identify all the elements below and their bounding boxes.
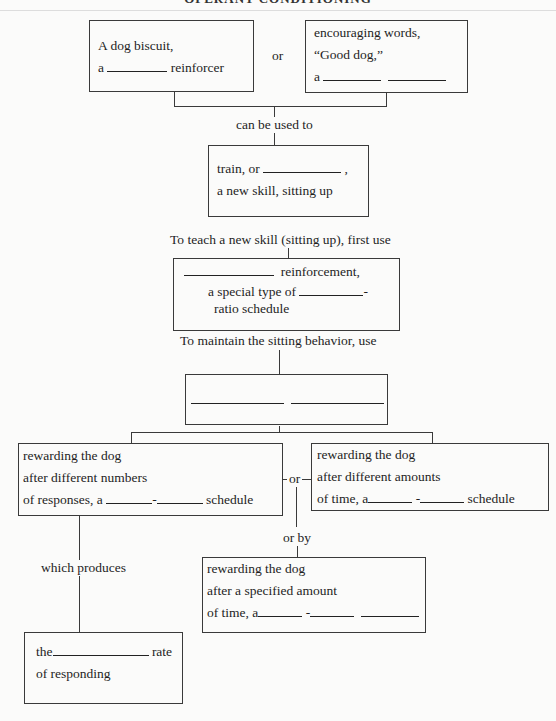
connector-line <box>131 432 132 443</box>
box-text: A dog biscuit, <box>98 35 253 57</box>
connector-line <box>297 546 298 557</box>
box-text: ratio schedule <box>184 302 399 316</box>
box-text: schedule <box>468 491 515 506</box>
connector-line <box>174 91 175 106</box>
blank-field[interactable] <box>420 490 464 503</box>
maintain-schedule-box <box>185 374 388 425</box>
blank-field[interactable] <box>368 490 412 503</box>
box-text: of time, a <box>207 605 258 620</box>
box-text: after different numbers <box>23 467 282 489</box>
box-text: “Good dog,” <box>314 44 467 66</box>
page-header: OPERANT CONDITIONING <box>0 0 556 7</box>
or-by-label: or by <box>281 530 313 546</box>
box-text: rewarding the dog <box>317 444 548 466</box>
connector-line <box>296 485 297 527</box>
blank-field[interactable] <box>263 160 341 173</box>
blank-field[interactable] <box>361 604 419 617</box>
box-text: a <box>98 60 104 75</box>
blank-field[interactable] <box>299 283 363 296</box>
response-rate-box: the rate of responding <box>24 632 183 704</box>
different-amounts-box: rewarding the dog after different amount… <box>311 443 549 511</box>
box-text: rewarding the dog <box>207 558 425 580</box>
or-middle-label: or <box>287 471 302 487</box>
to-teach-label: To teach a new skill (sitting up), first… <box>168 232 393 248</box>
box-text: train, or <box>217 161 260 176</box>
connector-line <box>386 92 387 106</box>
blank-field[interactable] <box>310 604 354 617</box>
different-numbers-box: rewarding the dog after different number… <box>18 443 283 516</box>
which-produces-label: which produces <box>39 560 128 576</box>
box-text: schedule <box>206 492 253 507</box>
reinforcement-box: reinforcement, a special type of - ratio… <box>173 258 400 331</box>
header-rule <box>0 10 556 11</box>
box-text: of time, a <box>317 491 368 506</box>
connector-line <box>288 248 289 258</box>
dog-biscuit-box: A dog biscuit, a reinforcer <box>89 20 254 92</box>
box-text: reinforcer <box>171 60 224 75</box>
box-text: a special type of <box>208 284 296 299</box>
blank-field[interactable] <box>107 59 167 72</box>
blank-field[interactable] <box>258 604 302 617</box>
or-label: or <box>270 48 285 64</box>
box-text: reinforcement, <box>281 264 360 279</box>
box-text: after different amounts <box>317 466 548 488</box>
box-text: encouraging words, <box>314 22 467 44</box>
box-text: of responding <box>36 663 182 685</box>
box-text: of responses, a <box>23 492 103 507</box>
connector-line <box>432 432 433 443</box>
connector-line <box>131 432 433 433</box>
blank-field[interactable] <box>291 391 384 404</box>
to-maintain-label: To maintain the sitting behavior, use <box>178 333 378 349</box>
box-text: , <box>345 161 348 176</box>
train-box: train, or , a new skill, sitting up <box>208 145 369 217</box>
box-text: rate <box>152 644 172 659</box>
specified-amount-box: rewarding the dog after a specified amou… <box>202 557 426 633</box>
blank-field[interactable] <box>53 643 149 656</box>
blank-field[interactable] <box>323 68 381 81</box>
blank-field[interactable] <box>106 491 152 504</box>
can-be-used-to-label: can be used to <box>234 117 315 133</box>
blank-field[interactable] <box>388 68 446 81</box>
box-text: rewarding the dog <box>23 445 282 467</box>
blank-field[interactable] <box>157 491 203 504</box>
box-text: the <box>36 644 53 659</box>
blank-field[interactable] <box>191 391 284 404</box>
blank-field[interactable] <box>184 263 274 276</box>
connector-line <box>174 106 387 107</box>
box-text: - <box>363 284 368 299</box>
box-text: a new skill, sitting up <box>217 180 368 202</box>
encouraging-words-box: encouraging words, “Good dog,” a <box>305 20 468 93</box>
box-text: a <box>314 69 320 84</box>
box-text: after a specified amount <box>207 580 425 602</box>
